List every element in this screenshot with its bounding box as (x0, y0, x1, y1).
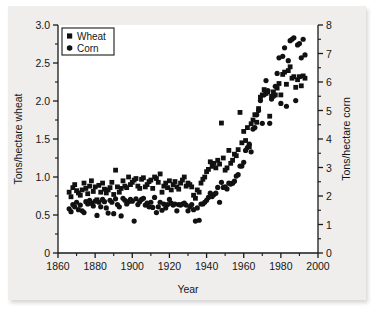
data-point-wheat (72, 182, 77, 187)
data-point-corn (81, 210, 86, 215)
data-point-wheat (150, 186, 155, 191)
data-point-corn (271, 94, 276, 99)
data-point-corn (106, 211, 111, 216)
data-point-wheat (126, 175, 131, 180)
data-point-corn (213, 191, 218, 196)
data-point-wheat (169, 188, 174, 193)
data-point-wheat (234, 153, 239, 158)
data-point-corn (215, 185, 220, 190)
y-right-tick-label: 7 (326, 48, 332, 60)
y-left-tick-label: 3.0 (35, 19, 50, 31)
data-point-corn (174, 208, 179, 213)
data-point-corn (262, 92, 267, 97)
data-point-wheat (202, 175, 207, 180)
y-right-tick-label: 2 (326, 190, 332, 202)
data-point-corn (91, 203, 96, 208)
data-point-wheat (109, 180, 114, 185)
legend-label: Wheat (77, 31, 106, 42)
data-point-corn (152, 195, 157, 200)
data-point-wheat (89, 178, 94, 183)
chart-figure: WheatCorn 186018801900192019401960198020… (0, 0, 379, 314)
data-point-corn (293, 98, 298, 103)
y-left-tick-label: 1.0 (35, 171, 50, 183)
data-point-wheat (288, 64, 293, 69)
data-point-corn (68, 209, 73, 214)
data-point-wheat (278, 93, 283, 98)
data-point-wheat (160, 190, 165, 195)
y-left-tick-label: 0 (44, 247, 50, 259)
data-point-corn (219, 180, 224, 185)
data-point-wheat (85, 191, 90, 196)
data-point-wheat (226, 148, 231, 153)
data-point-wheat (267, 114, 272, 119)
x-tick-label: 1940 (195, 260, 219, 272)
data-point-corn (249, 149, 254, 154)
data-point-corn (252, 125, 257, 130)
data-point-wheat (78, 193, 83, 198)
x-tick-label: 1980 (269, 260, 293, 272)
y-left-tick-label: 0.5 (35, 209, 50, 221)
data-point-wheat (156, 180, 161, 185)
data-point-corn (150, 205, 155, 210)
data-point-wheat (221, 156, 226, 161)
data-point-wheat (236, 147, 241, 152)
data-point-corn (98, 204, 103, 209)
data-point-corn (189, 202, 194, 207)
x-tick-label: 1900 (121, 260, 145, 272)
data-point-corn (265, 88, 270, 93)
data-point-corn (291, 35, 296, 40)
data-point-corn (195, 205, 200, 210)
data-point-wheat (173, 179, 178, 184)
data-point-corn (280, 54, 285, 59)
y-left-tick-label: 2.0 (35, 95, 50, 107)
data-point-corn (94, 213, 99, 218)
x-tick-label: 1880 (83, 260, 107, 272)
data-point-corn (282, 45, 287, 50)
y-right-tick-label: 3 (326, 162, 332, 174)
data-point-wheat (230, 158, 235, 163)
data-point-wheat (141, 175, 146, 180)
data-point-corn (132, 218, 137, 223)
data-point-wheat (243, 138, 248, 143)
y-left-axis-title: Tons/hectare wheat (12, 93, 24, 184)
data-point-wheat (111, 192, 116, 197)
data-point-wheat (189, 184, 194, 189)
y-right-tick-label: 4 (326, 133, 332, 145)
y-left-tick-label: 1.5 (35, 133, 50, 145)
data-point-corn (117, 204, 122, 209)
data-point-wheat (182, 175, 187, 180)
y-right-tick-label: 6 (326, 76, 332, 88)
data-point-corn (241, 160, 246, 165)
data-point-wheat (176, 187, 181, 192)
data-point-corn (256, 108, 261, 113)
data-point-corn (104, 205, 109, 210)
data-point-wheat (91, 189, 96, 194)
data-point-corn (119, 213, 124, 218)
data-point-wheat (69, 194, 74, 199)
data-point-wheat (113, 168, 118, 173)
data-point-corn (217, 200, 222, 205)
legend-marker-circle (67, 45, 73, 51)
x-tick-label: 1920 (158, 260, 182, 272)
data-point-corn (197, 218, 202, 223)
data-point-corn (260, 121, 265, 126)
y-right-tick-label: 5 (326, 105, 332, 117)
data-point-corn (236, 172, 241, 177)
data-point-wheat (137, 186, 142, 191)
chart-legend: WheatCorn (62, 28, 114, 55)
data-point-corn (301, 37, 306, 42)
data-point-wheat (121, 178, 126, 183)
data-point-corn (141, 196, 146, 201)
data-point-wheat (108, 185, 113, 190)
data-point-corn (278, 101, 283, 106)
data-point-corn (273, 84, 278, 89)
x-axis-title: Year (177, 283, 199, 295)
data-point-wheat (219, 121, 224, 126)
data-point-corn (267, 121, 272, 126)
x-tick-label: 1860 (46, 260, 70, 272)
data-point-corn (286, 58, 291, 63)
data-point-corn (263, 78, 268, 83)
data-point-wheat (67, 190, 72, 195)
y-right-tick-label: 8 (326, 19, 332, 31)
data-point-corn (232, 179, 237, 184)
